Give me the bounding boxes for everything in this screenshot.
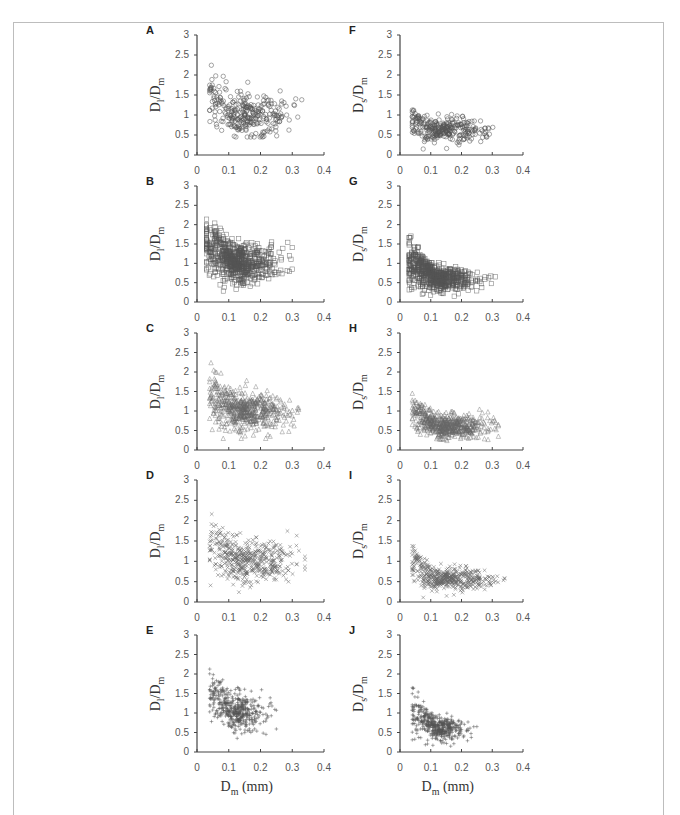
plot-area [0, 0, 680, 815]
x-axis-label: Dm (mm) [422, 779, 475, 797]
data-points [411, 686, 479, 748]
